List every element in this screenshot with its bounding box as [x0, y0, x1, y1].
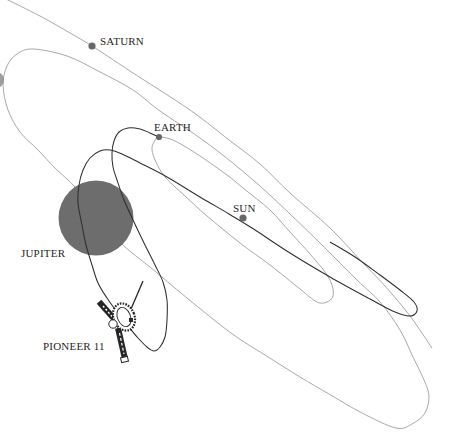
diagram-canvas: SATURN EARTH SUN JUPITER PIONEER 11: [0, 0, 458, 445]
saturn-label: SATURN: [100, 35, 144, 47]
pioneer-11-label: PIONEER 11: [43, 340, 105, 352]
saturn-planet: [88, 42, 95, 49]
spacecraft-body: [109, 320, 117, 328]
spacecraft-boom-end-cap: [121, 356, 129, 362]
jupiter-planet: [59, 181, 134, 256]
earth-planet: [156, 134, 162, 140]
spacecraft-mast: [131, 281, 143, 309]
orbit-diagram: SATURN EARTH SUN JUPITER PIONEER 11: [0, 0, 458, 445]
saturn-orbit: [4, 0, 432, 348]
jupiter-label: JUPITER: [21, 247, 66, 259]
spacecraft-antenna-dish: [109, 300, 139, 334]
sun-label: SUN: [233, 202, 256, 214]
earth-label: EARTH: [154, 121, 191, 133]
spacecraft-thruster: [129, 318, 133, 322]
sun-marker: [239, 214, 246, 221]
pioneer-spacecraft-icon: [101, 281, 143, 363]
